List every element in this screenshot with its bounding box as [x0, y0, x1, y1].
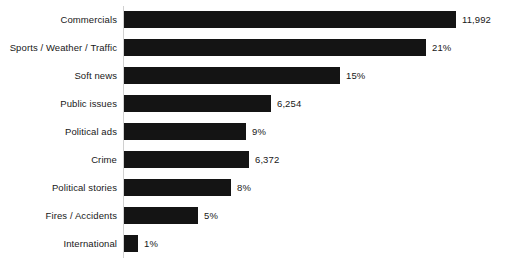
bar-value-label: 5%: [204, 207, 218, 224]
bar-row: Political ads9%: [0, 123, 505, 151]
bar-row: Fires / Accidents5%: [0, 207, 505, 235]
bar: [124, 179, 231, 196]
category-label: Sports / Weather / Traffic: [0, 39, 117, 56]
category-label: Soft news: [0, 67, 117, 84]
bar-row: International1%: [0, 235, 505, 263]
bar-chart: Commercials11,992Sports / Weather / Traf…: [0, 0, 505, 272]
bar-row: Sports / Weather / Traffic21%: [0, 39, 505, 67]
bar-value-label: 21%: [432, 39, 451, 56]
bar: [124, 67, 340, 84]
category-label: Crime: [0, 151, 117, 168]
bar: [124, 95, 271, 112]
bar-value-label: 11,992: [462, 11, 491, 28]
bar: [124, 123, 246, 140]
bar: [124, 207, 198, 224]
bar: [124, 151, 249, 168]
bar-value-label: 6,254: [277, 95, 301, 112]
category-label: Political ads: [0, 123, 117, 140]
category-label: Commercials: [0, 11, 117, 28]
bar: [124, 235, 138, 252]
bar-row: Crime6,372: [0, 151, 505, 179]
bar-value-label: 6,372: [255, 151, 279, 168]
bar-value-label: 15%: [346, 67, 365, 84]
category-label: Fires / Accidents: [0, 207, 117, 224]
bar-value-label: 9%: [252, 123, 266, 140]
category-label: Public issues: [0, 95, 117, 112]
bar-row: Soft news15%: [0, 67, 505, 95]
bar-row: Public issues6,254: [0, 95, 505, 123]
bar-value-label: 1%: [144, 235, 158, 252]
bar: [124, 11, 456, 28]
category-label: International: [0, 235, 117, 252]
category-label: Political stories: [0, 179, 117, 196]
bar-value-label: 8%: [237, 179, 251, 196]
bar-series: Commercials11,992Sports / Weather / Traf…: [0, 0, 505, 272]
bar-row: Political stories8%: [0, 179, 505, 207]
bar: [124, 39, 426, 56]
bar-row: Commercials11,992: [0, 11, 505, 39]
